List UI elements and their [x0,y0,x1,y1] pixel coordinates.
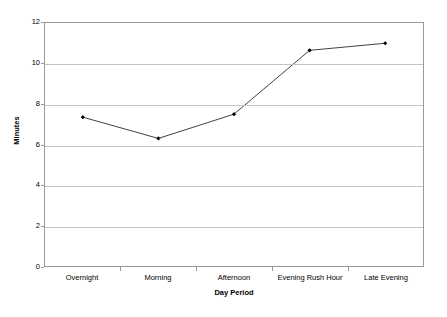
y-tick-label: 2 [10,222,40,230]
x-axis-title: Day Period [44,288,424,297]
x-tick-label: Afternoon [196,273,272,282]
gridline [45,227,423,228]
data-point-marker [81,115,85,119]
series-line [83,43,385,138]
gridline [45,146,423,147]
x-tick-label: Overnight [44,273,120,282]
line-chart: 024681012 Minutes Day Period OvernightMo… [0,0,447,317]
data-point-marker [156,136,160,140]
y-axis-title: Minutes [12,108,21,154]
x-tick-label: Morning [120,273,196,282]
gridline [45,105,423,106]
y-tick-label: 12 [10,18,40,26]
gridline [45,186,423,187]
y-tick-label: 4 [10,181,40,189]
y-tick-label: 10 [10,59,40,67]
y-tick-label: 0 [10,263,40,271]
series-layer [45,23,423,266]
plot-area [44,22,424,267]
x-tick-label: Evening Rush Hour [272,273,348,282]
x-tick-mark [120,267,121,271]
x-tick-label: Late Evening [348,273,424,282]
y-tick-label: 8 [10,100,40,108]
x-tick-mark [348,267,349,271]
gridline [45,64,423,65]
x-tick-mark [196,267,197,271]
y-tick-mark [41,267,44,268]
data-point-marker [383,41,387,45]
x-tick-mark [272,267,273,271]
